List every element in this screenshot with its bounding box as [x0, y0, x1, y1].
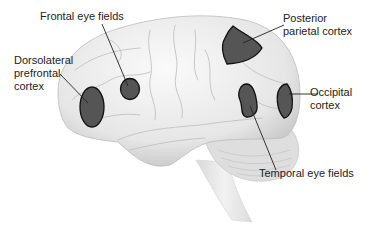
label-posterior-parietal-cortex: Posterior parietal cortex: [283, 12, 352, 38]
region-dorsolateral-prefrontal-cortex: [80, 87, 104, 127]
brain-diagram: Frontal eye fields Dorsolateral prefront…: [0, 0, 367, 227]
label-dorsolateral-prefrontal-cortex: Dorsolateral prefrontal cortex: [14, 54, 73, 93]
label-temporal-eye-fields: Temporal eye fields: [259, 167, 354, 180]
label-frontal-eye-fields: Frontal eye fields: [40, 10, 124, 23]
label-occipital-cortex: Occipital cortex: [310, 86, 352, 112]
region-frontal-eye-fields: [121, 79, 140, 100]
